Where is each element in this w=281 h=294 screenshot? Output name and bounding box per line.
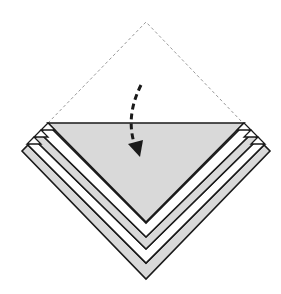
curved-dashed-arrow-down-icon: [128, 85, 143, 157]
folded-layers: [22, 123, 270, 279]
diagram-canvas: [0, 0, 281, 294]
dashed-guide-triangle: [48, 22, 243, 123]
origami-diagram: Fold the top corner down along the horiz…: [0, 0, 281, 294]
